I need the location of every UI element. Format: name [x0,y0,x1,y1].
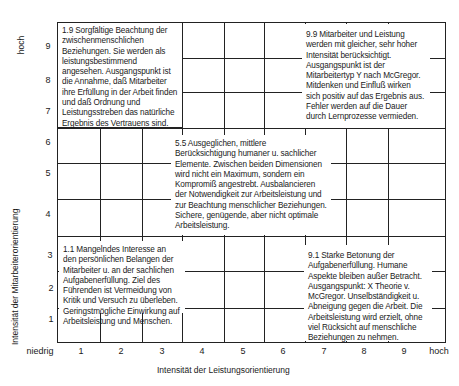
style-5-5-text: 5.5 Ausgeglichen, mittlere Berücksichtig… [175,139,327,230]
y-axis-title: Intensität der Mitarbeiterorientierung [10,205,20,345]
style-9-1-text: 9.1 Starke Betonung der Aufgabenerfüllun… [308,251,422,342]
x-tick: 1 [74,346,88,356]
x-tick: 7 [317,346,331,356]
y-tick: 9 [42,41,54,51]
style-5-5-box: 5.5 Ausgeglichen, mittlere Berücksichtig… [171,135,331,235]
y-tick: 8 [42,75,54,85]
managerial-grid: 1.9 Sorgfältige Beachtung der zwischenme… [57,22,446,343]
y-tick: 6 [42,137,54,147]
y-axis-high-label: hoch [16,36,26,54]
x-axis-high-label: hoch [424,346,454,356]
style-9-1-box: 9.1 Starke Betonung der Aufgabenerfüllun… [304,245,432,341]
y-tick: 1 [45,314,57,324]
y-tick: 7 [42,106,54,116]
style-9-9-text: 9.9 Mitarbeiter und Leistung werden mit … [306,30,424,121]
y-tick: 2 [45,283,57,293]
style-1-9-text: 1.9 Sorgfältige Beachtung der zwischenme… [62,26,177,128]
style-1-9-box: 1.9 Sorgfältige Beachtung der zwischenme… [57,22,183,128]
grid-line [58,236,445,237]
style-1-1-text: 1.1 Mangelndes Interesse an den persönli… [63,245,180,326]
x-tick: 5 [236,346,250,356]
x-tick: 8 [357,346,371,356]
y-tick: 3 [44,250,56,260]
x-tick: 4 [195,346,209,356]
x-axis-low-label: niedrig [22,346,58,356]
style-9-9-box: 9.9 Mitarbeiter und Leistung werden mit … [302,24,430,128]
x-tick: 9 [397,346,411,356]
style-1-1-box: 1.1 Mangelndes Interesse an den persönli… [59,241,185,313]
y-tick: 5 [42,168,54,178]
x-tick: 6 [276,346,290,356]
x-axis-title: Intensität der Leistungsorientierung [157,365,290,375]
y-tick: 4 [42,209,54,219]
x-tick: 3 [155,346,169,356]
x-tick: 2 [114,346,128,356]
